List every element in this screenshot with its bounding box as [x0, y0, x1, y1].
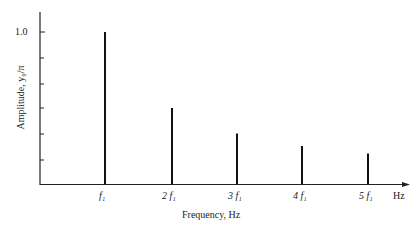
x-tick-3f1: 3 f₁	[228, 190, 242, 201]
y-ticks	[40, 32, 45, 160]
x-axis-title: Frequency, Hz	[182, 209, 240, 220]
spectral-lines	[105, 32, 368, 184]
x-axis-arrow-icon	[402, 182, 410, 187]
x-tick-f1: f₁	[99, 190, 105, 201]
spectrum-chart	[0, 0, 419, 227]
y-axis-title: Amplitude, y₀/π	[15, 48, 26, 148]
y-tick-label: 1.0	[15, 26, 28, 37]
x-tick-2f1: 2 f₁	[162, 190, 176, 201]
x-tick-4f1: 4 f₁	[293, 190, 307, 201]
x-tick-5f1: 5 f₁	[359, 190, 373, 201]
x-unit-label: Hz	[393, 190, 405, 201]
